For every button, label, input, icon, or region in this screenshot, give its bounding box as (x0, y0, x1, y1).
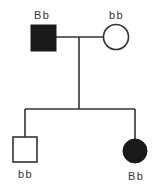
pedigree-lines (25, 37, 135, 139)
mother-genotype-label: bb (109, 9, 124, 21)
son-genotype-label: bb (18, 168, 33, 180)
father-affected-square (31, 25, 56, 51)
daughter-genotype-label: Bb (128, 170, 144, 182)
pedigree-chart: Bb bb bb Bb (0, 0, 153, 189)
mother-individual: bb (104, 9, 129, 50)
son-individual: bb (13, 137, 37, 180)
daughter-individual: Bb (123, 139, 147, 182)
father-individual: Bb (31, 9, 56, 51)
father-genotype-label: Bb (34, 9, 50, 21)
daughter-affected-circle (123, 139, 147, 163)
mother-unaffected-circle (104, 25, 129, 50)
son-unaffected-square (13, 137, 37, 162)
